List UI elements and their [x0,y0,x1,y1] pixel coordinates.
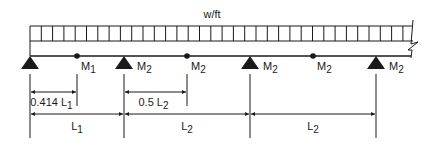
support-moment-label: M2 [137,60,152,75]
dimension-label: 0.414 L1 [30,96,73,111]
span-label: L2 [307,120,319,135]
pin-support-icon [21,56,39,69]
uniform-load [30,26,413,56]
beam-diagram: w/ft M2M2M2 M1M2M2 0.414 L10.5 L2L1L2L2 [0,0,441,149]
midspan-moment-label: M1 [81,60,96,75]
support-moment-label: M2 [389,60,404,75]
pin-support-icon [367,56,385,69]
moment-point-icon [184,53,190,59]
moment-point-icon [74,53,80,59]
load-label: w/ft [202,8,220,20]
pin-support-icon [115,56,133,69]
span-label: L2 [181,120,193,135]
span-label: L1 [71,120,83,135]
moment-point-icon [310,53,316,59]
support-moment-label: M2 [263,60,278,75]
dimension-label: 0.5 L2 [138,96,168,111]
midspan-moment-label: M2 [191,60,206,75]
midspan-moment-label: M2 [317,60,332,75]
pin-support-icon [241,56,259,69]
